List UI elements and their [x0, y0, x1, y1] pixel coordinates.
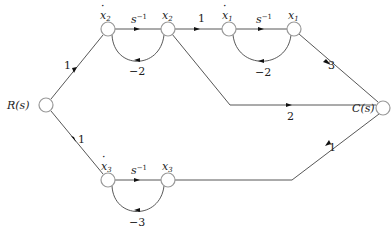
- signal-flow-graph: R(s) C(s) x2 · x2 x1 · x1 x3 · x3 s−1 s−…: [0, 0, 392, 232]
- edge-x1-to-c: [299, 34, 378, 102]
- node-x3dot: [101, 173, 115, 187]
- edge-x3-feedback: [112, 186, 164, 212]
- edge-x2-feedback: [112, 35, 164, 61]
- arrow-icon: [258, 27, 264, 31]
- edge-x1-feedback: [233, 35, 291, 61]
- gain-r-x2dot: 1: [64, 59, 71, 72]
- node-x1dot: [222, 22, 236, 36]
- arrow-icon: [286, 103, 292, 107]
- gain-r-x3dot: 1: [78, 133, 85, 146]
- node-x3: [161, 173, 175, 187]
- edge-r-to-x3dot: [51, 111, 103, 174]
- gain-x1dot-x1: s−1: [256, 13, 272, 26]
- label-r: R(s): [6, 99, 30, 112]
- gain-x3-feedback: −3: [129, 216, 145, 229]
- dot-x1dot: ·: [223, 0, 227, 13]
- dot-x3dot: ·: [102, 151, 106, 164]
- node-c: [376, 101, 390, 115]
- arrow-icon: [258, 59, 264, 63]
- gain-x1-feedback: −2: [255, 66, 271, 79]
- gain-x3-c: 1: [329, 141, 336, 154]
- node-x1: [287, 22, 301, 36]
- dot-x2dot: ·: [101, 0, 105, 13]
- label-x3: x3: [162, 160, 173, 174]
- arrow-icon: [134, 178, 140, 182]
- gain-x2dot-x2: s−1: [131, 13, 147, 26]
- arrow-icon: [71, 136, 76, 142]
- gain-x2-feedback: −2: [129, 65, 145, 78]
- label-x2: x2: [162, 9, 173, 23]
- gain-x3dot-x3: s−1: [131, 164, 147, 177]
- gain-x1-c: 3: [328, 59, 335, 72]
- arrow-icon: [194, 27, 200, 31]
- node-x2dot: [101, 22, 115, 36]
- label-c: C(s): [352, 102, 375, 115]
- edge-x3-to-c: [175, 114, 379, 180]
- gain-x2-x1dot: 1: [198, 12, 205, 25]
- node-r: [39, 98, 53, 112]
- gain-x2-c: 2: [287, 110, 294, 123]
- label-x1: x1: [288, 9, 299, 23]
- edge-x2-to-c: [172, 34, 376, 105]
- node-x2: [161, 22, 175, 36]
- arrow-icon: [134, 27, 140, 31]
